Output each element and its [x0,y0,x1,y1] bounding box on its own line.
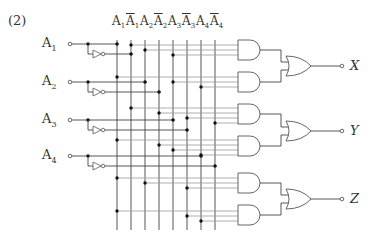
junction-dot [213,121,216,124]
junction-dot [129,52,132,55]
junction-dot [143,181,146,184]
junction-dot [115,75,118,78]
output-label: X [350,58,359,73]
junction-dot [115,42,118,45]
and-gate-icon [238,40,260,60]
bus-label: A4 [210,15,223,30]
input-label: A4 [42,148,56,165]
junction-dot [185,116,188,119]
or-gate-icon [286,56,311,76]
junction-dot [115,176,118,179]
junction-dot [171,53,174,56]
input-label: A1 [42,36,56,53]
and-gate-icon [238,173,260,193]
or-gate-icon [286,121,311,141]
junction-dot [115,209,118,212]
bus-label: A2 [154,15,167,30]
and-gate-icon [238,104,260,124]
junction-dot [199,153,202,156]
junction-dot [157,90,160,93]
junction-dot [143,48,146,51]
not-gate-icon [93,162,101,170]
bus-label: A3 [182,15,195,30]
junction-dot [171,118,174,121]
junction-dot [157,143,160,146]
inverter-bubble-icon [101,164,105,168]
input-terminal-icon [68,154,72,158]
bus-label: A3 [168,15,181,30]
output-terminal-icon [340,64,344,68]
input-terminal-icon [68,80,72,84]
junction-dot [129,106,132,109]
junction-dot [185,128,188,131]
and-gate-icon [238,136,260,156]
junction-dot [129,43,132,46]
output-label: Y [350,123,359,138]
junction-dot [199,85,202,88]
or-gate-icon [286,189,311,209]
bus-label: A4 [196,15,209,30]
junction-dot [171,80,174,83]
inverter-bubble-icon [101,128,105,132]
junction-dot [171,148,174,151]
inverter-bubble-icon [101,90,105,94]
input-label: A3 [42,112,56,129]
input-terminal-icon [68,118,72,122]
and-gate-icon [238,72,260,92]
not-gate-icon [93,50,101,58]
bus-label: A1 [126,15,139,30]
bus-label: A2 [140,15,153,30]
output-terminal-icon [340,129,344,133]
junction-dot [185,214,188,217]
bus-label: A1 [112,15,125,30]
inverter-bubble-icon [101,52,105,56]
and-gate-icon [238,205,260,225]
junction-dot [185,186,188,189]
junction-dot [143,80,146,83]
not-gate-icon [93,88,101,96]
input-terminal-icon [68,42,72,46]
junction-dot [157,111,160,114]
junction-dot [213,164,216,167]
output-label: Z [350,191,359,206]
problem-number: (2) [8,14,26,27]
junction-dot [115,138,118,141]
input-label: A2 [42,74,56,91]
not-gate-icon [93,126,101,134]
junction-dot [199,219,202,222]
output-terminal-icon [340,197,344,201]
